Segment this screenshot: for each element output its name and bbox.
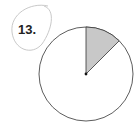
center-point: [85, 73, 88, 76]
problem-number: 13.: [18, 22, 36, 37]
problem-figure: 13.: [0, 0, 140, 124]
